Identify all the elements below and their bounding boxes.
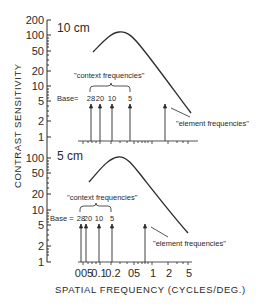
base-value: 20	[84, 214, 92, 223]
base-values: 28 20 10 5	[87, 94, 132, 103]
y-tick-label: 10	[32, 80, 44, 92]
y-tick-label: 100	[26, 29, 44, 41]
panel-title-5cm: 5 cm	[57, 149, 83, 163]
y-tick-label: 5	[38, 219, 44, 231]
y-tick-label: 10	[32, 204, 44, 216]
bottom-y-ticks	[47, 158, 51, 262]
x-tick-label: 5	[186, 267, 192, 279]
y-tick-label: 20	[32, 188, 44, 200]
base-value: 10	[95, 214, 103, 223]
base-value: 5	[110, 214, 114, 223]
y-tick-label: 20	[32, 65, 44, 77]
base-value: 28	[87, 94, 95, 103]
x-axis-title: SPATIAL FREQUENCY (CYCLES/DEG.)	[55, 284, 246, 295]
context-frequencies-label: "context frequencies"	[67, 193, 138, 202]
bottom-panel: 100 50 20 10 5 2 1 5 cm 005 0.1 0.2 05 1…	[26, 141, 227, 279]
context-brace	[90, 83, 130, 92]
context-brace	[80, 203, 111, 212]
x-tick-labels: 005 0.1 0.2 05 1 2 5	[75, 267, 192, 279]
bottom-x-ticks	[83, 262, 188, 265]
y-tick-label: 50	[32, 45, 44, 57]
top-y-ticks	[47, 20, 51, 137]
y-axis-title: CONTRAST SENSITIVITY	[12, 63, 23, 188]
y-tick-label: 200	[26, 14, 44, 26]
y-tick-label: 1	[38, 256, 44, 268]
figure: CONTRAST SENSITIVITY 200 100 50 20 10	[0, 0, 259, 306]
element-pointer	[171, 108, 190, 117]
y-tick-label: 1	[38, 131, 44, 143]
base-value: 5	[128, 94, 132, 103]
base-label: Base =	[50, 214, 74, 223]
element-frequencies-label: "element frequencies"	[153, 239, 226, 248]
x-tick-label: 2	[166, 267, 172, 279]
base-label: Base=	[57, 94, 79, 103]
y-tick-label: 5	[38, 95, 44, 107]
top-x-ticks	[83, 141, 188, 144]
bottom-y-tick-labels: 100 50 20 10 5 2 1	[26, 152, 44, 268]
y-tick-label: 2	[38, 240, 44, 252]
top-panel: 200 100 50 20 10 5 2 1 10 cm "context fr…	[26, 14, 250, 144]
x-tick-label: 0.2	[105, 267, 120, 279]
y-tick-label: 2	[38, 115, 44, 127]
base-value: 20	[96, 94, 104, 103]
context-frequencies-label: "context frequencies"	[74, 71, 145, 80]
y-tick-label: 100	[26, 152, 44, 164]
element-arrow	[164, 104, 167, 141]
y-tick-label: 50	[32, 167, 44, 179]
base-values: 28 20 10 5	[77, 214, 114, 223]
panel-title-10cm: 10 cm	[57, 21, 90, 35]
context-arrows	[90, 104, 132, 141]
context-arrows	[80, 224, 114, 262]
x-tick-label: 05	[128, 267, 140, 279]
x-tick-label: 1	[150, 267, 156, 279]
top-y-tick-labels: 200 100 50 20 10 5 2 1	[26, 14, 44, 143]
element-frequencies-label: "element frequencies"	[176, 119, 249, 128]
base-value: 10	[108, 94, 116, 103]
x-tick-label: 0.1	[91, 267, 106, 279]
element-arrow	[144, 224, 147, 262]
element-pointer	[151, 227, 168, 237]
